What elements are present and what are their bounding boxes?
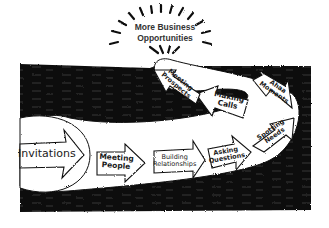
step-building-relationships: Building Relationships (153, 154, 196, 168)
goal-label: More Business Opportunities (126, 23, 204, 43)
goal-line-1: More Business (126, 23, 204, 32)
step-invitations: Invitations (18, 148, 76, 160)
goal-line-2: Opportunities (126, 34, 204, 43)
step-meeting-people: Meeting People (98, 153, 134, 171)
diagram-canvas: More Business Opportunities Invitations … (0, 0, 329, 228)
